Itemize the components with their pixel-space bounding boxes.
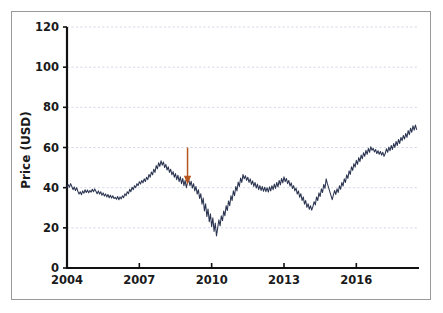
y-tick-label-40: 40	[43, 181, 59, 195]
y-tick-label-100: 100	[35, 60, 59, 74]
y-tick-label-120: 120	[35, 20, 59, 34]
y-tick-label-60: 60	[43, 141, 59, 155]
y-tick-label-20: 20	[43, 221, 59, 235]
x-tick-label-2007: 2007	[123, 273, 155, 287]
y-axis-title: Price (USD)	[19, 111, 33, 189]
price-series-line	[67, 125, 417, 236]
y-axis-ticks: 020406080100120	[35, 20, 67, 275]
figure-root: 020406080100120 20042007201020132016 Pri…	[0, 0, 443, 313]
price-line-chart: 020406080100120 20042007201020132016 Pri…	[0, 0, 443, 313]
x-axis-ticks: 20042007201020132016	[51, 263, 372, 287]
x-tick-label-2010: 2010	[196, 273, 228, 287]
x-tick-label-2013: 2013	[268, 273, 300, 287]
y-tick-label-80: 80	[43, 100, 59, 114]
x-tick-label-2016: 2016	[340, 273, 372, 287]
x-tick-label-2004: 2004	[51, 273, 83, 287]
annotations	[184, 148, 191, 185]
